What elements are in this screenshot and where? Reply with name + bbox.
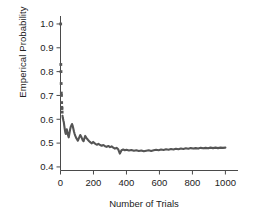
- data-point: [59, 23, 62, 26]
- data-point: [60, 70, 63, 73]
- chart-figure: Emperical Probability Number of Trials 0…: [0, 0, 254, 217]
- data-point: [61, 107, 64, 110]
- y-tick-label: 0.7: [40, 90, 53, 101]
- plot-canvas: 0.40.50.60.70.80.91.0 02004006008001000: [0, 0, 254, 217]
- data-point: [60, 92, 63, 95]
- x-tick-mark-group: [61, 171, 226, 175]
- x-tick-label: 1000: [215, 177, 236, 188]
- x-tick-label: 800: [184, 177, 200, 188]
- y-tick-label: 0.4: [40, 161, 53, 172]
- y-tick-label: 0.8: [40, 66, 53, 77]
- x-tick-label-group: 02004006008001000: [58, 177, 236, 188]
- data-point: [60, 101, 63, 104]
- y-tick-label-group: 0.40.50.60.70.80.91.0: [40, 18, 53, 172]
- x-tick-label: 0: [58, 177, 63, 188]
- data-point: [60, 94, 63, 97]
- y-tick-mark-group: [57, 24, 61, 167]
- data-series-line: [62, 116, 225, 154]
- data-point: [60, 82, 63, 85]
- x-tick-label: 600: [152, 177, 168, 188]
- y-tick-label: 0.6: [40, 114, 53, 125]
- data-point: [61, 111, 64, 114]
- y-tick-label: 0.5: [40, 137, 53, 148]
- x-tick-label: 200: [86, 177, 102, 188]
- x-tick-label: 400: [119, 177, 135, 188]
- y-tick-label: 0.9: [40, 42, 53, 53]
- data-point: [59, 63, 62, 66]
- data-series-points: [59, 23, 63, 114]
- y-tick-label: 1.0: [40, 18, 53, 29]
